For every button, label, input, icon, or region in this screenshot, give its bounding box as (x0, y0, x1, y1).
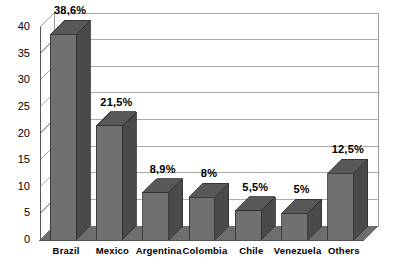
y-tick-label: 10 (6, 181, 30, 192)
bar-value-label: 5% (272, 184, 332, 195)
bar-mexico (96, 112, 136, 240)
y-tick-label: 30 (6, 74, 30, 85)
y-tick-label: 0 (6, 234, 30, 245)
bar-value-label: 38,6% (40, 5, 100, 16)
bar-others (328, 159, 368, 240)
x-category-label: Others (308, 246, 380, 256)
bar-value-label: 21,5% (86, 97, 146, 108)
y-tick-label: 25 (6, 101, 30, 112)
bar-brazil (50, 20, 90, 240)
bar-colombia (189, 183, 229, 240)
y-tick-label: 5 (6, 207, 30, 218)
y-tick-label: 15 (6, 154, 30, 165)
y-tick-label: 40 (6, 21, 30, 32)
y-tick-label: 20 (6, 128, 30, 139)
chart-canvas (0, 0, 395, 265)
y-tick-label: 35 (6, 48, 30, 59)
bar-value-label: 12,5% (318, 144, 378, 155)
bar-value-label: 8% (179, 168, 239, 179)
bar-argentina (143, 179, 183, 240)
bar-chart: 0510152025303540 BrazilMexicoArgentinaCo… (0, 0, 395, 265)
